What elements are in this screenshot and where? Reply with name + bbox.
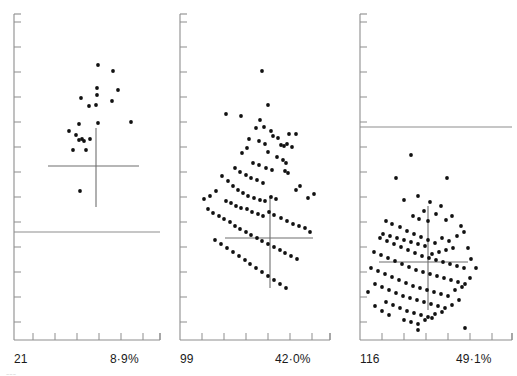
panel-1-data-point — [84, 148, 88, 152]
panel-3-data-point — [442, 276, 446, 280]
panel-1-data-point — [111, 69, 115, 73]
panel-2-data-point — [266, 274, 270, 278]
panel-3-data-point — [428, 272, 432, 276]
panel-3-data-point — [386, 256, 390, 260]
panel-2-data-point — [239, 206, 243, 210]
panel-3-data-point — [412, 232, 416, 236]
panel-3-data-point — [463, 326, 467, 330]
panel-2-data-point — [244, 230, 248, 234]
panel-3-data-point — [380, 309, 384, 313]
panel-3-data-point — [422, 300, 426, 304]
panel-2-data-point — [281, 158, 285, 162]
panel-2-data-point — [208, 194, 212, 198]
panel-1-data-point — [88, 137, 92, 141]
panel-2-data-point — [266, 242, 270, 246]
panel-2-data-point — [303, 226, 307, 230]
panel-2-data-point — [238, 227, 242, 231]
panel-3-data-point — [400, 262, 404, 266]
panel-2-data-point — [225, 246, 229, 250]
panel-3-data-point — [419, 235, 423, 239]
panel-2-data-point — [263, 142, 267, 146]
panel-2-data-point — [266, 150, 270, 154]
panel-3-data-point — [378, 236, 382, 240]
panel-2-data-point — [258, 198, 262, 202]
panel-3-data-point — [469, 257, 473, 261]
panel-group-3 — [360, 14, 512, 340]
panel-3-data-point — [455, 234, 459, 238]
panel-3-data-point — [383, 272, 387, 276]
panel-3-data-point — [434, 212, 438, 216]
panel-3-data-point — [439, 204, 443, 208]
panel-2-data-point — [279, 216, 283, 220]
panel-2-data-point — [272, 245, 276, 249]
panel-3-data-point — [394, 176, 398, 180]
panel-2-data-point — [224, 199, 228, 203]
panel-3-data-point — [463, 282, 467, 286]
panel-2-data-point — [247, 137, 251, 141]
panel-3-data-point — [416, 322, 420, 326]
panel-2-data-point — [243, 258, 247, 262]
panel-3-data-point — [418, 286, 422, 290]
panel-3-data-point — [423, 318, 427, 322]
panel-3-data-point — [406, 248, 410, 252]
panel-2-data-point — [285, 219, 289, 223]
panel-1-data-point — [74, 133, 78, 137]
panel-2-data-point — [285, 142, 289, 146]
panel-3-data-point — [443, 306, 447, 310]
panel-2-data-point — [269, 195, 273, 199]
panel-2-data-point — [246, 194, 250, 198]
panel-3-data-point — [440, 310, 444, 314]
panel-3-data-point — [402, 238, 406, 242]
panel-2-data-point — [217, 214, 221, 218]
panel-2-data-point — [238, 170, 242, 174]
panel-3-data-point — [439, 292, 443, 296]
panel-2-data-point — [286, 171, 290, 175]
panel-2-data-point — [278, 248, 282, 252]
panel-3-data-point — [422, 209, 426, 213]
panel-group-2 — [180, 14, 330, 340]
panel-2-data-point — [269, 129, 273, 133]
panel-2-data-point — [297, 224, 301, 228]
panel-3-data-point — [407, 265, 411, 269]
panel-1-data-point — [82, 139, 86, 143]
panel-3-data-point — [398, 306, 402, 310]
panel-3-data-point — [426, 238, 430, 242]
panel-1-data-point — [116, 88, 120, 92]
panel-2-data-point — [254, 126, 258, 130]
scatter-panel-figure: 21 8·9% 99 42·0% 116 49·1% --- — [0, 0, 517, 376]
panel-1-data-point — [67, 129, 71, 133]
panel-2-data-point — [263, 199, 267, 203]
panel-2-data-point — [260, 270, 264, 274]
panel-3-count-label: 116 — [360, 352, 380, 366]
panel-1-data-point — [96, 63, 100, 67]
panel-3-data-point — [430, 316, 434, 320]
panel-3-data-point — [390, 222, 394, 226]
panel-2-data-point — [222, 217, 226, 221]
panel-2-data-point — [254, 266, 258, 270]
faint-artifact: --- — [6, 368, 16, 376]
panel-3-data-point — [428, 200, 432, 204]
panel-1-data-point — [77, 122, 81, 126]
panel-2-data-point — [260, 69, 264, 73]
panel-3-data-point — [416, 194, 420, 198]
panel-2-data-point — [236, 188, 240, 192]
panel-3-data-point — [459, 224, 463, 228]
panel-3-data-point — [398, 225, 402, 229]
panel-1-data-point — [78, 189, 82, 193]
panel-3-data-point — [462, 230, 466, 234]
panel-3-data-point — [455, 264, 459, 268]
panel-3-data-point — [405, 229, 409, 233]
panel-2-data-point — [262, 125, 266, 129]
panel-group-1 — [14, 14, 160, 340]
panel-2-data-point — [233, 166, 237, 170]
panel-2-data-point — [271, 134, 275, 138]
panel-3-data-point — [379, 253, 383, 257]
panel-3-data-point — [366, 290, 370, 294]
panel-2-data-point — [258, 118, 262, 122]
panel-1-percent-label: 8·9% — [110, 352, 139, 366]
panel-3-data-point — [421, 270, 425, 274]
panel-3-data-point — [373, 304, 377, 308]
panel-3-data-point — [466, 246, 470, 250]
panel-2-data-point — [298, 184, 302, 188]
panel-3-data-point — [436, 304, 440, 308]
